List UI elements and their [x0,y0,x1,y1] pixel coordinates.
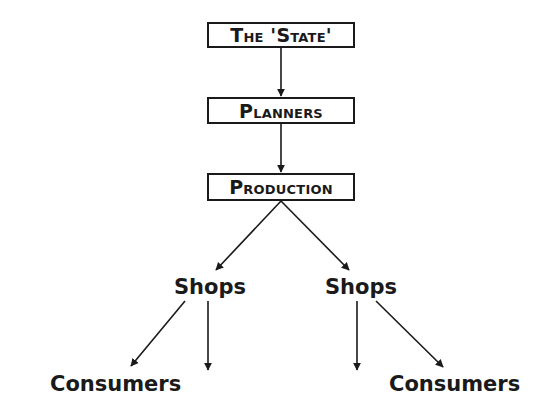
node-production-label: Production [229,176,333,198]
node-production: Production [207,173,355,201]
node-planners: Planners [207,97,355,124]
node-shops-right: Shops [325,275,397,299]
node-state: The 'State' [207,22,355,48]
node-shops-left: Shops [174,275,246,299]
arrow-shops-left-to-consumers-left [131,301,185,366]
node-planners-label: Planners [239,100,323,122]
node-state-label: The 'State' [230,24,332,46]
arrow-production-to-shops-right [281,201,349,270]
node-consumers-left: Consumers [50,372,181,396]
arrow-shops-right-to-consumers-right [376,301,443,367]
connector-lines [0,0,541,417]
node-consumers-right: Consumers [389,372,520,396]
arrow-production-to-shops-left [216,201,281,270]
